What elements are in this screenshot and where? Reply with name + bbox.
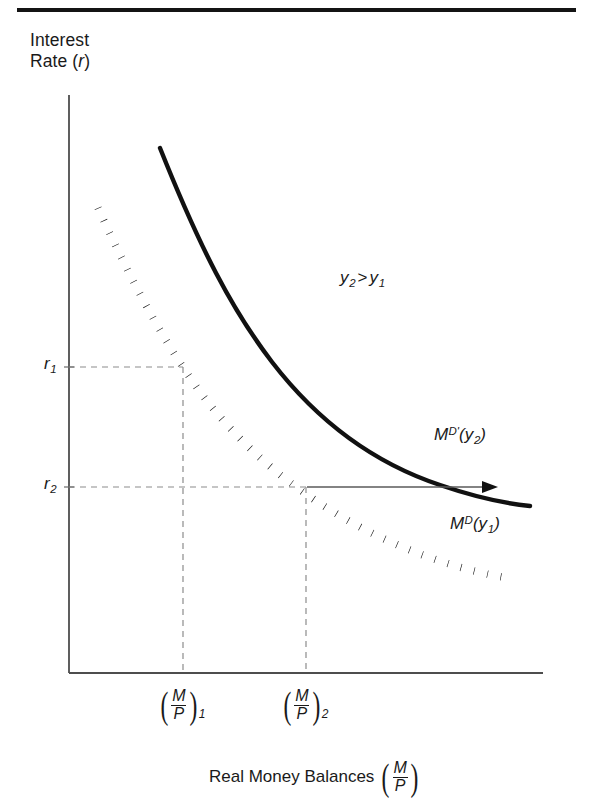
xlabel-denominator: P [393,777,408,795]
mp1-paren-open: ( [160,690,168,720]
axis-label-y: Interest Rate (r) [30,30,90,71]
money-demand-curve-2 [160,148,530,506]
axis-label-x-text: Real Money Balances [209,767,379,787]
mp1-subscript: 1 [199,707,206,722]
mp1-numerator: M [171,688,186,705]
axis-label-y-prefix: Rate ( [30,51,78,71]
curve1-label-paren-close: ) [494,514,500,533]
curve1-label-main: M [450,514,464,533]
mp2-denominator: P [294,705,309,723]
xlabel-numerator: M [393,760,408,777]
annotation-operator: > [356,268,370,287]
y-tick-r1-subscript: 1 [50,363,57,375]
xlabel-fraction: M P [392,760,408,795]
annotation-left-var: y [340,268,349,287]
xlabel-paren-open: ( [382,762,390,792]
mp2-paren-close: ) [312,690,320,720]
y-tick-r1-var: r [44,354,50,373]
annotation-income-comparison: y2>y1 [340,268,385,290]
mp2-fraction: M P [294,688,310,723]
curve1-label-superscript: D [464,514,473,526]
x-tick-label-mp1: ( M P ) 1 [158,688,205,723]
curve2-label-main: M [434,425,448,444]
mp1-denominator: P [171,705,186,723]
annotation-left-subscript: 2 [349,277,356,289]
xlabel-paren-close: ) [411,762,419,792]
axis-label-x-fraction-group: ( M P ) [379,760,421,795]
curve1-label-arg: y [479,514,488,533]
axis-label-x: Real Money Balances ( M P ) [209,760,421,795]
money-demand-curve-1 [98,208,508,578]
mp2-numerator: M [294,688,309,705]
curve2-label-arg: y [465,425,474,444]
y-tick-r2-var: r [44,474,50,493]
axis-label-y-suffix: ) [84,51,90,71]
axis-label-y-line2: Rate (r) [30,51,90,72]
y-tick-label-r2: r2 [44,474,57,496]
axis-label-y-line1: Interest [30,30,90,51]
x-tick-label-mp2: ( M P ) 2 [281,688,328,723]
money-demand-figure: Interest Rate (r) r1 r2 y2>y1 MD'(y2) MD… [0,0,601,812]
curve2-label-superscript: D' [448,425,459,437]
mp1-paren-close: ) [189,690,197,720]
shift-arrow-head [482,481,498,493]
curve-label-money-demand-2: MD'(y2) [434,425,486,448]
annotation-right-var: y [370,268,379,287]
annotation-right-subscript: 1 [378,277,385,289]
curve2-label-paren-close: ) [480,425,486,444]
curve-label-money-demand-1: MD(y1) [450,514,500,537]
mp1-fraction: M P [171,688,187,723]
y-tick-r2-subscript: 2 [50,483,57,495]
mp2-subscript: 2 [322,707,329,722]
mp2-paren-open: ( [283,690,291,720]
y-tick-label-r1: r1 [44,354,57,376]
